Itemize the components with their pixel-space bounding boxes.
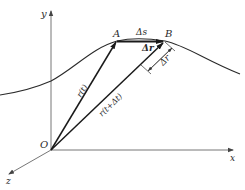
point-b-label: B (164, 28, 172, 39)
origin-label: O (40, 139, 48, 150)
z-axis (9, 150, 51, 174)
delta-r-magnitude-label: Δr (157, 52, 173, 68)
r-t-label: r(t) (75, 83, 90, 99)
vector-r-t-plus-dt (51, 43, 163, 150)
position-vector-diagram: y x z O A B Δs Δr Δr r(t) r(t+Δt) (0, 0, 245, 190)
trajectory-curve (0, 39, 240, 95)
r-t-plus-dt-label: r(t+Δt) (97, 92, 124, 119)
y-axis-label: y (40, 8, 47, 19)
z-axis-label: z (5, 176, 11, 186)
x-axis-label: x (230, 153, 235, 163)
delta-r-vector-label: Δr (141, 43, 155, 53)
point-a-label: A (112, 28, 120, 39)
arc-length-label: Δs (135, 27, 147, 37)
